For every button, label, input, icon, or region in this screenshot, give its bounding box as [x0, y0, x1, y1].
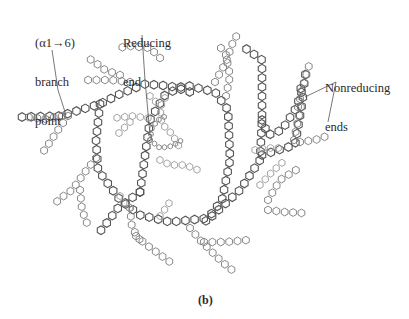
- glucose-unit-icon: [157, 145, 162, 150]
- glucose-unit-icon: [167, 129, 173, 136]
- glucose-unit-icon: [77, 194, 84, 202]
- glucose-unit-icon: [163, 217, 170, 226]
- glucose-unit-icon: [146, 213, 153, 222]
- nonreducing-ends-label-line2: ends: [325, 121, 390, 134]
- branch-point-label-line2: branch: [35, 76, 75, 89]
- glucose-chain: [116, 118, 133, 136]
- glucose-chain: [87, 56, 123, 79]
- glucose-unit-icon: [159, 253, 166, 261]
- glucose-unit-icon: [162, 123, 168, 130]
- glucose-unit-icon: [212, 89, 219, 98]
- glucose-unit-icon: [77, 186, 84, 194]
- glucose-unit-icon: [305, 137, 312, 145]
- glucose-unit-icon: [195, 84, 202, 93]
- glucose-unit-icon: [179, 161, 185, 168]
- glucose-unit-icon: [82, 104, 89, 113]
- glucose-unit-icon: [104, 179, 111, 188]
- glucose-unit-icon: [94, 60, 101, 68]
- glucose-unit-icon: [262, 176, 268, 183]
- glucose-unit-icon: [290, 209, 297, 217]
- glucose-chain: [133, 232, 173, 265]
- glucose-unit-icon: [94, 155, 101, 164]
- glucose-unit-icon: [281, 208, 288, 216]
- glucose-unit-icon: [229, 193, 236, 202]
- glucose-unit-icon: [136, 188, 143, 197]
- glucose-unit-icon: [146, 243, 153, 251]
- glucose-unit-icon: [241, 179, 248, 188]
- glucose-unit-icon: [313, 136, 320, 144]
- glucose-chain: [265, 206, 305, 217]
- glucose-unit-icon: [95, 109, 102, 118]
- glucose-unit-icon: [279, 159, 285, 166]
- glucose-unit-icon: [122, 113, 128, 120]
- glucose-unit-icon: [285, 143, 292, 152]
- glucose-unit-icon: [87, 56, 94, 64]
- glucose-unit-icon: [224, 84, 231, 92]
- figure-caption: (b): [198, 293, 213, 308]
- glucose-unit-icon: [173, 217, 180, 226]
- glucose-unit-icon: [83, 219, 90, 227]
- glucose-unit-icon: [258, 55, 265, 64]
- glucose-unit-icon: [85, 76, 92, 84]
- glucose-unit-icon: [273, 207, 280, 215]
- reducing-end-label: Reducing end: [123, 11, 171, 102]
- glucose-unit-icon: [107, 94, 114, 103]
- glucose-unit-icon: [217, 96, 224, 105]
- glucose-unit-icon: [153, 121, 158, 126]
- glucose-unit-icon: [305, 63, 312, 71]
- glucose-chain: [265, 166, 300, 204]
- glucose-unit-icon: [116, 129, 122, 136]
- glucose-unit-icon: [139, 169, 146, 178]
- glucose-unit-icon: [225, 131, 232, 140]
- glucose-unit-icon: [141, 151, 148, 160]
- glucose-unit-icon: [97, 226, 104, 235]
- glucose-unit-icon: [258, 83, 265, 92]
- glucose-unit-icon: [94, 118, 101, 127]
- glucose-chain: [187, 224, 235, 273]
- glucose-unit-icon: [191, 215, 198, 224]
- glucose-unit-icon: [223, 92, 230, 100]
- glucose-unit-icon: [102, 76, 109, 84]
- glucose-unit-icon: [258, 92, 265, 101]
- glucose-unit-icon: [215, 255, 222, 263]
- glucose-chain: [157, 156, 200, 173]
- glucose-chain: [136, 82, 233, 225]
- glucose-unit-icon: [78, 203, 85, 211]
- glucose-unit-icon: [87, 161, 94, 169]
- glucose-unit-icon: [166, 200, 172, 207]
- glucose-unit-icon: [225, 122, 232, 131]
- glucose-unit-icon: [243, 236, 250, 244]
- glucose-unit-icon: [218, 44, 225, 52]
- glucose-unit-icon: [186, 88, 193, 97]
- glucose-unit-icon: [226, 76, 233, 84]
- nonreducing-ends-label: Nonreducing ends: [325, 56, 390, 147]
- nonreducing-ends-label-line1: Nonreducing: [325, 82, 390, 95]
- glucose-unit-icon: [93, 145, 100, 154]
- glucose-unit-icon: [143, 142, 150, 151]
- glucose-unit-icon: [278, 175, 285, 183]
- glucose-unit-icon: [187, 224, 194, 232]
- glucose-unit-icon: [137, 211, 144, 220]
- glucose-unit-icon: [114, 114, 120, 121]
- glucose-unit-icon: [222, 176, 229, 185]
- glucose-unit-icon: [164, 160, 170, 167]
- glucose-unit-icon: [109, 211, 116, 220]
- glucose-unit-icon: [258, 64, 265, 73]
- glucose-unit-icon: [200, 214, 207, 223]
- glucose-unit-icon: [137, 113, 143, 120]
- glucose-chain: [77, 186, 91, 226]
- glucose-unit-icon: [103, 219, 110, 228]
- glucose-unit-icon: [265, 196, 272, 204]
- glucose-unit-icon: [226, 67, 233, 75]
- glucose-unit-icon: [228, 266, 235, 274]
- glucose-unit-icon: [235, 187, 242, 196]
- glucose-unit-icon: [220, 185, 227, 194]
- glucose-unit-icon: [93, 127, 100, 136]
- glucose-unit-icon: [115, 90, 122, 99]
- glucose-unit-icon: [286, 113, 293, 122]
- glucose-unit-icon: [258, 101, 265, 110]
- glucose-unit-icon: [265, 206, 272, 214]
- glucose-unit-icon: [226, 238, 233, 246]
- glucose-unit-icon: [226, 140, 233, 149]
- glucose-unit-icon: [209, 238, 216, 246]
